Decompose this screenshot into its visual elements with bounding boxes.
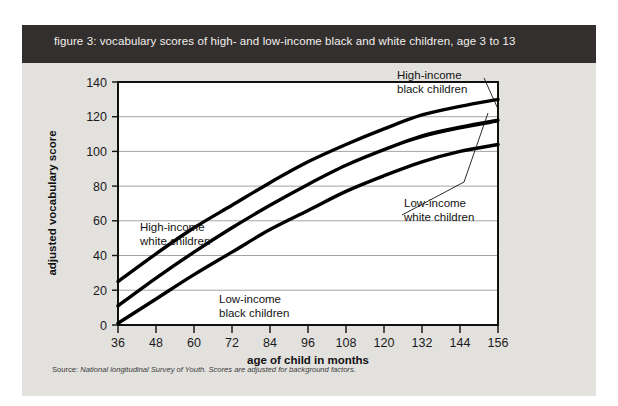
y-tick-label: 140 (86, 76, 107, 90)
x-tick-label: 72 (225, 336, 239, 350)
y-tick-label: 20 (93, 284, 107, 298)
annotation-high-income-white-line2: white children (139, 235, 210, 247)
y-tick-label: 100 (86, 145, 107, 159)
x-tick-label: 36 (111, 336, 125, 350)
x-tick-label: 144 (450, 336, 471, 350)
x-tick-label: 132 (412, 336, 433, 350)
figure-title: figure 3: vocabulary scores of high- and… (54, 35, 516, 47)
annotation-low-income-white-line1: Low-income (404, 197, 466, 209)
y-tick-label: 40 (93, 249, 107, 263)
y-tick-label: 120 (86, 110, 107, 124)
x-tick-label: 96 (301, 336, 315, 350)
annotation-low-income-black-line1: Low-income (219, 293, 281, 305)
annotation-high-income-white-line1: High-income (140, 221, 205, 233)
y-axis-title: adjusted vocabulary score (46, 130, 58, 275)
source-note: Source: National longitudinal Survey of … (52, 365, 356, 374)
y-tick-label: 80 (93, 180, 107, 194)
chart-area: 140 120 100 80 60 40 20 0 adjusted vocab… (22, 63, 596, 396)
x-tick-label: 120 (374, 336, 395, 350)
x-tick-label: 84 (263, 336, 277, 350)
source-label: Source: (52, 365, 78, 374)
annotation-high-income-black-line1: High-income (397, 69, 462, 81)
x-tick-label: 48 (149, 336, 163, 350)
x-tick-label: 156 (488, 336, 509, 350)
y-axis-tick-labels: 140 120 100 80 60 40 20 0 (86, 76, 107, 333)
annotation-low-income-black-line2: black children (219, 307, 289, 319)
x-axis-ticks (118, 325, 498, 333)
vocabulary-score-line-chart: 140 120 100 80 60 40 20 0 adjusted vocab… (22, 63, 596, 396)
source-body: National longitudinal Survey of Youth. S… (80, 365, 356, 374)
y-tick-label: 0 (100, 319, 107, 333)
y-tick-label: 60 (93, 214, 107, 228)
x-tick-label: 60 (187, 336, 201, 350)
x-tick-label: 108 (336, 336, 357, 350)
figure-title-bar: figure 3: vocabulary scores of high- and… (22, 25, 596, 63)
annotation-high-income-black-line2: black children (397, 83, 467, 95)
annotation-low-income-white-line2: white children (403, 211, 474, 223)
x-axis-tick-labels: 36 48 60 72 84 96 108 120 132 144 156 (111, 336, 508, 350)
figure-card: figure 3: vocabulary scores of high- and… (22, 25, 596, 396)
